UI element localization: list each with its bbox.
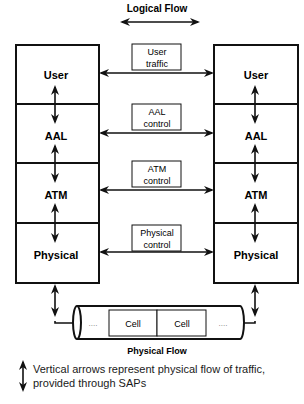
flow-aal-control: AAL control	[101, 104, 212, 133]
svg-text:ATM: ATM	[148, 164, 166, 174]
svg-text:Physical: Physical	[140, 228, 174, 238]
left-layer-user: User	[44, 69, 69, 81]
svg-text:control: control	[143, 176, 170, 186]
right-layer-aal: AAL	[245, 130, 268, 142]
logical-flow-title: Logical Flow	[127, 3, 188, 14]
right-layer-user: User	[244, 69, 269, 81]
right-layer-atm: ATM	[244, 189, 267, 201]
legend-line-2: provided through SAPs	[33, 376, 265, 390]
pipe-right-dots: ....	[219, 319, 228, 328]
flow-user-traffic: User traffic	[101, 44, 212, 73]
legend: Vertical arrows represent physical flow …	[33, 362, 265, 390]
physical-pipe: .... Cell Cell ....	[73, 306, 244, 339]
right-protocol-stack: User AAL ATM Physical	[214, 45, 298, 323]
atm-protocol-diagram: Logical Flow User AAL ATM Physical User …	[0, 0, 304, 404]
flow-atm-control: ATM control	[101, 161, 212, 190]
physical-flow-title: Physical Flow	[127, 346, 188, 356]
left-layer-physical: Physical	[34, 249, 79, 261]
svg-text:control: control	[143, 240, 170, 250]
svg-text:traffic: traffic	[146, 59, 168, 69]
left-layer-aal: AAL	[45, 130, 68, 142]
flow-physical-control: Physical control	[101, 225, 212, 252]
svg-text:control: control	[143, 119, 170, 129]
left-protocol-stack: User AAL ATM Physical	[16, 45, 99, 323]
svg-text:User: User	[147, 47, 166, 57]
right-layer-physical: Physical	[234, 249, 279, 261]
pipe-cell: Cell	[125, 319, 141, 329]
legend-line-1: Vertical arrows represent physical flow …	[33, 362, 265, 376]
svg-text:AAL: AAL	[148, 107, 165, 117]
pipe-left-dots: ....	[89, 319, 98, 328]
left-layer-atm: ATM	[44, 189, 67, 201]
pipe-cell: Cell	[174, 319, 190, 329]
